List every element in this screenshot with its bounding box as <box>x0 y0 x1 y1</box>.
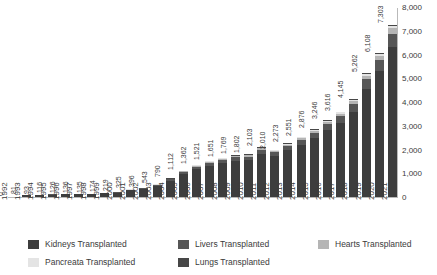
bar-value-text: 1,112 <box>167 153 175 170</box>
legend-item[interactable]: Livers Transplanted <box>178 235 318 253</box>
y-axis-tick: 1,000 <box>402 170 422 178</box>
bar-column[interactable]: 325 <box>126 8 136 197</box>
legend-swatch-icon <box>318 240 329 249</box>
x-axis-tick: 1995 <box>47 199 57 229</box>
bar-value-text: 2,273 <box>272 125 280 143</box>
x-axis-tick-text: 2017 <box>327 182 336 200</box>
legend-item[interactable]: Lungs Transplanted <box>178 253 318 271</box>
bar-value-label: 2,876 <box>306 119 314 137</box>
x-axis-tick-text: 2011 <box>249 183 258 200</box>
x-axis-tick-text: 1999 <box>92 182 101 200</box>
x-axis-tick-text: 2000 <box>105 182 114 200</box>
bar-column[interactable]: 126 <box>60 8 70 197</box>
y-axis-tick: 4,000 <box>402 99 422 107</box>
bar-value-text: 1,769 <box>220 137 228 155</box>
x-axis-tick: 2001 <box>126 199 136 229</box>
x-axis-tick: 1999 <box>100 199 110 229</box>
bar-column[interactable]: 136 <box>73 8 83 197</box>
bar-value-label: 1,802 <box>241 145 249 163</box>
x-axis-tick-text: 2003 <box>144 182 153 200</box>
legend-item[interactable]: Hearts Transplanted <box>318 235 428 253</box>
stacked-bar-chart: 081931161261361351742193253965437901,112… <box>0 0 437 275</box>
legend-label: Lungs Transplanted <box>195 257 270 267</box>
plot-area: 081931161261361351742193253965437901,112… <box>8 8 398 198</box>
x-axis-tick-text: 1998 <box>79 182 88 200</box>
x-axis-tick: 2010 <box>244 199 254 229</box>
bar-value-label: 6,108 <box>372 43 380 61</box>
x-axis-tick-text: 1997 <box>66 182 75 200</box>
x-axis-tick-text: 1992 <box>0 182 9 200</box>
y-axis-tick-labels: 01,0002,0003,0004,0005,0006,0007,0008,00… <box>402 8 437 198</box>
x-axis-tick: 2008 <box>218 199 228 229</box>
x-axis-tick-text: 2002 <box>131 182 140 200</box>
bar-column[interactable]: 1,112 <box>178 8 188 197</box>
y-axis-tick: 6,000 <box>402 52 422 60</box>
x-axis-tick-text: 1995 <box>39 182 48 200</box>
bar-column[interactable]: 1,769 <box>231 8 241 197</box>
bar-column[interactable]: 6,108 <box>375 8 385 197</box>
x-axis-tick: 2017 <box>335 199 345 229</box>
bar-value-text: 2,103 <box>246 129 254 147</box>
x-axis-tick-text: 2019 <box>354 182 363 200</box>
x-axis-tick: 2019 <box>362 199 372 229</box>
bar-value-text: 2,010 <box>259 131 267 149</box>
bar-column[interactable]: 3,616 <box>335 8 345 197</box>
legend-label: Hearts Transplanted <box>335 239 412 249</box>
bar-segment-livers <box>375 60 384 71</box>
bar-column[interactable]: 135 <box>87 8 97 197</box>
bar-value-text: 5,262 <box>351 54 359 72</box>
bar-column[interactable]: 1,362 <box>191 8 201 197</box>
bar-column[interactable]: 2,010 <box>270 8 280 197</box>
x-axis-tick-text: 1994 <box>26 182 35 200</box>
bar-column[interactable]: 1,521 <box>204 8 214 197</box>
x-axis-tick: 2005 <box>178 199 188 229</box>
bar-column[interactable]: 7,303 <box>388 8 398 197</box>
bar-column[interactable]: 2,551 <box>296 8 306 197</box>
x-axis-tick: 2007 <box>204 199 214 229</box>
bar-segment-kidneys <box>375 71 384 197</box>
x-axis-tick-text: 2016 <box>314 182 323 200</box>
legend-swatch-icon <box>178 258 189 267</box>
bar-column[interactable]: 219 <box>113 8 123 197</box>
bar-value-label: 2,551 <box>293 127 301 145</box>
bar-column[interactable]: 93 <box>34 8 44 197</box>
x-axis-tick: 2004 <box>165 199 175 229</box>
bar-column[interactable]: 2,273 <box>283 8 293 197</box>
bar-value-text: 3,246 <box>311 102 319 120</box>
x-axis-tick: 2003 <box>152 199 162 229</box>
x-axis-tick: 2006 <box>191 199 201 229</box>
bar-column[interactable]: 1,651 <box>218 8 228 197</box>
x-axis-tick-labels: 1992199319941995199619971998199920002001… <box>8 199 398 229</box>
legend-item[interactable]: Kidneys Transplanted <box>28 235 178 253</box>
bar-column[interactable]: 1,802 <box>244 8 254 197</box>
bar-column[interactable]: 81 <box>21 8 31 197</box>
bar-value-label: 5,262 <box>359 63 367 81</box>
bar-value-label: 2,273 <box>280 134 288 152</box>
bar-value-text: 3,616 <box>324 93 332 111</box>
bar-value-label: 3,246 <box>319 111 327 129</box>
x-axis-tick-text: 2015 <box>301 182 310 200</box>
legend-label: Kidneys Transplanted <box>45 239 127 249</box>
bar-column[interactable]: 174 <box>100 8 110 197</box>
x-axis-tick-text: 2009 <box>223 182 232 200</box>
x-axis-tick: 2000 <box>113 199 123 229</box>
legend-item[interactable]: Pancreata Transplanted <box>28 253 178 271</box>
bar-column[interactable]: 396 <box>139 8 149 197</box>
bar-value-text: 2,551 <box>285 118 293 136</box>
x-axis-tick: 2018 <box>348 199 358 229</box>
x-axis-tick: 1996 <box>60 199 70 229</box>
x-axis-tick-text: 2010 <box>236 182 245 200</box>
bar-series-group: 081931161261361351742193253965437901,112… <box>8 8 398 197</box>
bar-column[interactable]: 116 <box>47 8 57 197</box>
bar-column[interactable]: 4,145 <box>348 8 358 197</box>
x-axis-tick: 2014 <box>296 199 306 229</box>
x-axis-tick-text: 2001 <box>118 182 127 200</box>
bar-value-text: 790 <box>154 166 162 178</box>
x-axis-tick-text: 2004 <box>157 182 166 200</box>
bar-value-text: 7,303 <box>377 6 385 24</box>
bar-column[interactable]: 0 <box>8 8 18 197</box>
y-axis-tick: 0 <box>402 194 406 202</box>
bar-column[interactable]: 2,103 <box>257 8 267 197</box>
x-axis-tick: 2016 <box>322 199 332 229</box>
x-axis-tick-text: 2021 <box>380 182 389 200</box>
